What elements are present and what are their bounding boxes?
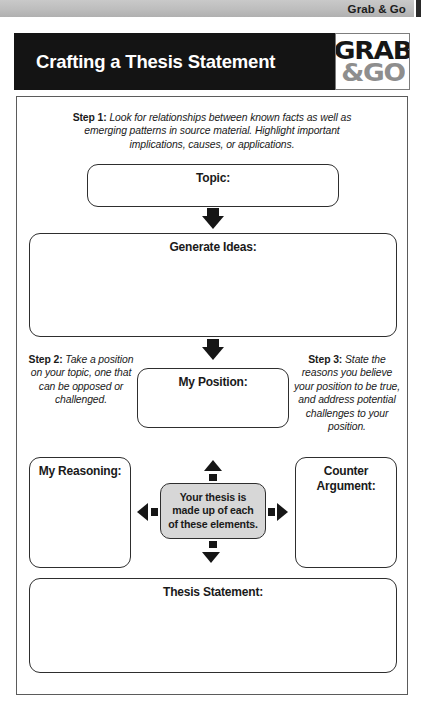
generate-ideas-label: Generate Ideas: — [30, 240, 396, 255]
step-3-text: State the reasons you believe your posit… — [294, 354, 400, 432]
arrow-head-left-icon — [137, 503, 148, 521]
thesis-core-line2: made up of each — [172, 504, 253, 516]
my-position-label: My Position: — [138, 375, 288, 390]
arrow-head-down-icon — [202, 347, 224, 360]
thesis-core-callout: Your thesis is made up of each of these … — [160, 483, 266, 539]
worksheet-title-bar: Crafting a Thesis Statement GRAB &GO — [14, 33, 410, 90]
logo-text-go: &GO — [341, 62, 405, 84]
topic-box[interactable]: Topic: — [87, 164, 339, 207]
thesis-statement-box[interactable]: Thesis Statement: — [29, 578, 397, 673]
counter-argument-label-line2: Argument: — [317, 479, 376, 493]
my-position-box[interactable]: My Position: — [137, 368, 289, 428]
step-1-instruction: Step 1: Look for relationships between k… — [59, 111, 365, 151]
arrow-head-right-icon — [277, 503, 288, 521]
counter-argument-box[interactable]: Counter Argument: — [295, 457, 397, 568]
step-3-instruction: Step 3: State the reasons you believe yo… — [293, 353, 401, 433]
thesis-core-text: Your thesis is made up of each of these … — [164, 491, 262, 532]
arrow-stub — [268, 508, 275, 516]
page-title: Crafting a Thesis Statement — [36, 51, 275, 73]
arrow-head-down-icon — [202, 216, 224, 229]
grab-and-go-logo: GRAB &GO — [335, 33, 410, 90]
series-banner: Grab & Go — [0, 0, 414, 17]
thesis-statement-label: Thesis Statement: — [30, 585, 396, 600]
arrow-stub — [151, 508, 158, 516]
thesis-core-line1: Your thesis is — [180, 491, 247, 503]
step-1-label: Step 1: — [73, 112, 107, 123]
step-2-instruction: Step 2: Take a position on your topic, o… — [27, 353, 135, 407]
thesis-core-line3: of these elements. — [168, 518, 258, 530]
my-reasoning-box[interactable]: My Reasoning: — [29, 457, 131, 568]
generate-ideas-box[interactable]: Generate Ideas: — [29, 233, 397, 337]
topic-label: Topic: — [88, 171, 338, 186]
series-label: Grab & Go — [348, 1, 406, 17]
counter-argument-label-line1: Counter — [324, 464, 369, 478]
worksheet-body: Step 1: Look for relationships between k… — [16, 96, 408, 695]
step-1-text: Look for relationships between known fac… — [84, 112, 351, 150]
counter-argument-label: Counter Argument: — [296, 464, 396, 494]
arrow-stub — [209, 474, 217, 481]
my-reasoning-label: My Reasoning: — [30, 464, 130, 479]
step-3-label: Step 3: — [308, 354, 342, 365]
arrow-head-up-icon — [204, 460, 222, 471]
arrow-head-down-icon — [202, 552, 220, 563]
arrow-stub — [209, 541, 217, 548]
banner-right-edge-mark — [416, 0, 421, 17]
step-2-label: Step 2: — [29, 354, 63, 365]
